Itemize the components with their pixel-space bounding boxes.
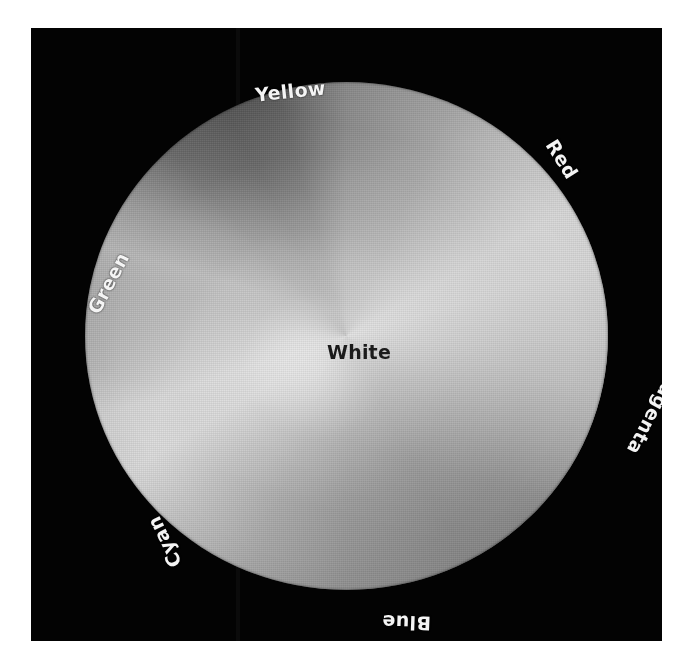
shadow-quadrant [85, 82, 608, 590]
hue-label-magenta: Magenta [623, 363, 662, 458]
disk-edge [85, 82, 608, 590]
highlight-band [85, 82, 608, 590]
hue-label-blue: Blue [382, 611, 432, 635]
photo-panel: Yellow Red Magenta Blue Cyan Green White [31, 28, 662, 641]
scan-texture-overlay [85, 82, 608, 590]
hue-gradient-disk [85, 82, 608, 590]
hue-disk [85, 82, 608, 590]
vignette-overlay [85, 82, 608, 590]
center-label-white: White [327, 341, 391, 363]
color-wheel-figure: Yellow Red Magenta Blue Cyan Green White [0, 0, 692, 667]
